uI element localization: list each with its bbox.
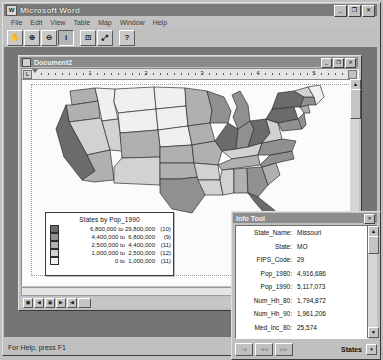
info-tool-field-list[interactable]: State_Name: Missouri State: MO FIPS_Code… (235, 225, 368, 339)
ruler-tick (188, 73, 189, 75)
document-title-bar[interactable]: Document2 _ ❐ ✕ (20, 57, 358, 67)
ruler-tick (223, 73, 224, 75)
info-value: 1,961,206 (297, 310, 326, 317)
ruler-tick (265, 73, 266, 75)
maximize-button[interactable]: ❐ (348, 5, 361, 17)
chevron-down-icon[interactable]: ▾ (366, 344, 377, 355)
info-scroll-thumb[interactable] (368, 236, 379, 254)
ruler-tick (76, 73, 77, 75)
info-first-button[interactable]: I◀ (235, 343, 253, 356)
ruler-tick (69, 73, 70, 75)
application-window: W Microsoft Word _ ❐ ✕ File Edit View Ta… (0, 0, 383, 360)
ruler-tick (160, 73, 161, 75)
ruler-tick (209, 73, 210, 75)
us-states-choropleth-map[interactable] (42, 85, 332, 225)
legend-row: 6,800,000 to 29,800,000 (10) (46, 225, 173, 233)
nav-extra-button[interactable] (78, 298, 91, 308)
menu-item-map[interactable]: Map (94, 18, 116, 28)
map-legend[interactable]: States by Pop_1990 6,800,000 to 29,800,0… (45, 212, 174, 276)
zoom-out-tool-icon[interactable]: ⊖ (41, 30, 57, 46)
info-key: BPI_1990: (236, 337, 292, 339)
pan-hand-tool-icon[interactable]: ✋ (7, 30, 23, 46)
menu-item-edit[interactable]: Edit (26, 18, 46, 28)
state-nm (114, 157, 160, 185)
legend-row: 2,500,000 to 4,400,000 (11) (46, 241, 173, 249)
info-tool-vertical-scrollbar[interactable]: ▲ ▼ (367, 225, 377, 338)
info-row-bpi-1990: BPI_1990: 1.9812 (236, 334, 367, 339)
info-value: 1.9812 (297, 337, 317, 339)
info-layer-label: States (341, 346, 362, 353)
ruler-tick (83, 73, 84, 75)
info-key: Pop_1990: (236, 283, 292, 290)
window-controls: _ ❐ ✕ (334, 5, 375, 17)
zoom-in-tool-icon[interactable]: ⊕ (24, 30, 40, 46)
legend-swatch (50, 241, 59, 249)
ruler-tick (314, 73, 315, 75)
state-mt (114, 87, 156, 113)
main-title-bar[interactable]: W Microsoft Word _ ❐ ✕ (4, 4, 377, 16)
nav-next-button[interactable]: ▶ (56, 298, 66, 308)
info-tool-title: Info Tool (236, 215, 265, 222)
info-tool-icon[interactable]: i (58, 30, 74, 46)
ruler-tick (55, 73, 56, 75)
ruler-tick (335, 73, 336, 75)
state-co (120, 130, 160, 158)
legend-count: (10) (155, 226, 171, 232)
ruler-tick (181, 73, 182, 75)
ruler-tick (132, 73, 133, 75)
legend-range: 6,800,000 to 29,800,000 (63, 226, 155, 232)
menu-item-help[interactable]: Help (149, 18, 171, 28)
state-tx (160, 177, 205, 213)
info-prev-button[interactable]: ◀◀ (255, 343, 273, 356)
ruler-tick (342, 73, 343, 75)
ruler-end-marker (348, 70, 357, 79)
minimize-button[interactable]: _ (334, 5, 347, 17)
legend-row: 0 to 1,000,000 (11) (46, 257, 173, 265)
ruler-tick (125, 73, 126, 75)
doc-minimize-button[interactable]: _ (321, 58, 332, 68)
info-value: 25,574 (297, 324, 317, 331)
info-row-fips-code: FIPS_Code: 29 (236, 253, 367, 267)
label-tool-icon[interactable]: ⊡ (80, 30, 96, 46)
help-tool-icon[interactable]: ? (119, 30, 135, 46)
ruler-marks: 12345 (22, 69, 358, 79)
status-text: For Help, press F1 (8, 344, 66, 351)
ruler-tick (216, 73, 217, 75)
nav-first-button[interactable]: ◼ (23, 298, 33, 308)
info-next-button[interactable]: ▶▶ (275, 343, 293, 356)
info-tool-close-button[interactable]: ✕ (364, 214, 375, 224)
info-value: MO (297, 243, 307, 250)
ruler-tick (328, 73, 329, 75)
nav-page-button[interactable]: ▣ (45, 298, 55, 308)
legend-range: 0 to 1,000,000 (63, 258, 155, 264)
menu-item-file[interactable]: File (7, 18, 26, 28)
nav-prev-button[interactable]: ◀ (34, 298, 44, 308)
menu-bar: File Edit View Table Map Window Help (4, 17, 380, 28)
ruler-tick (146, 73, 147, 75)
state-ok (160, 163, 198, 179)
doc-restore-button[interactable]: ❐ (333, 58, 344, 68)
menu-item-table[interactable]: Table (69, 18, 94, 28)
ruler-tick (90, 73, 91, 75)
info-scroll-down-button[interactable]: ▼ (368, 327, 379, 338)
legend-range: 2,500,000 to 4,400,000 (63, 242, 155, 248)
menu-item-window[interactable]: Window (116, 18, 149, 28)
close-button[interactable]: ✕ (362, 5, 375, 17)
ruler-tool-icon[interactable]: ⤢ (97, 30, 113, 46)
scroll-thumb[interactable] (350, 89, 361, 119)
state-ms (220, 169, 234, 195)
nav-last-button[interactable]: ◀ (67, 298, 77, 308)
menu-item-view[interactable]: View (46, 18, 69, 28)
ruler-tick (321, 73, 322, 75)
info-tool-title-bar[interactable]: Info Tool ✕ (233, 213, 377, 223)
legend-row: 4,400,000 to 6,800,000 (9) (46, 233, 173, 241)
legend-range: 1,000,000 to 2,500,000 (63, 250, 155, 256)
document-title: Document2 (34, 59, 72, 66)
doc-close-button[interactable]: ✕ (345, 58, 356, 68)
legend-count: (11) (155, 242, 171, 248)
ruler-tick (174, 73, 175, 75)
state-nd (154, 87, 186, 109)
state-ar (194, 163, 220, 180)
info-key: Num_Hh_80: (236, 297, 292, 304)
legend-count: (9) (155, 234, 171, 240)
